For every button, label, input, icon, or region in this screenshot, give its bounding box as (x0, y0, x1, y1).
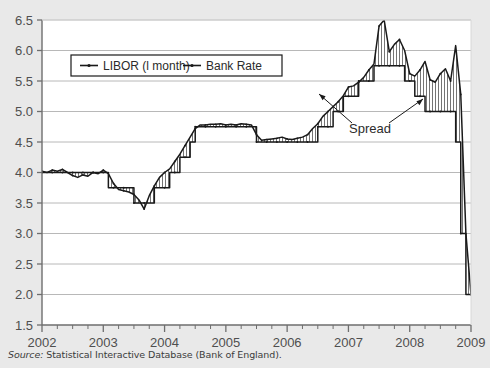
series-marker (245, 123, 247, 125)
series-marker (256, 141, 258, 143)
y-axis-ticks (37, 20, 42, 325)
series-marker (296, 137, 298, 139)
series-marker (429, 79, 431, 81)
series-marker (113, 183, 115, 185)
series-marker (123, 187, 125, 189)
series-marker (164, 172, 166, 174)
series-marker (62, 172, 64, 174)
series-marker (409, 73, 411, 75)
series-marker (419, 69, 421, 71)
spread-annotation-label: Spread (349, 121, 391, 136)
series-marker (215, 123, 217, 125)
y-tick-label: 5.0 (15, 104, 33, 119)
series-marker (450, 111, 452, 113)
series-marker (378, 25, 380, 27)
series-marker (286, 141, 288, 143)
series-marker (215, 126, 217, 128)
y-tick-label: 4.0 (15, 165, 33, 180)
series-marker (348, 86, 350, 88)
series-marker (266, 139, 268, 141)
x-axis-ticks (42, 325, 471, 332)
series-marker (235, 124, 237, 126)
y-axis-tick-labels: 1.52.02.53.03.54.04.55.05.56.06.5 (15, 13, 33, 333)
series-marker (143, 208, 145, 210)
series-marker (184, 156, 186, 158)
legend-item-label[interactable]: LIBOR (l month) (103, 59, 190, 73)
series-marker (205, 124, 207, 126)
series-marker (296, 141, 298, 143)
series-marker (317, 123, 319, 125)
series-marker (62, 169, 64, 171)
series-marker (143, 202, 145, 204)
x-tick-label: 2005 (211, 335, 240, 350)
series-marker (399, 39, 401, 41)
series-marker (450, 80, 452, 82)
x-tick-label: 2009 (457, 335, 486, 350)
series-marker (51, 169, 53, 171)
libor-bank-rate-chart: 1.52.02.53.03.54.04.55.05.56.06.5 200220… (0, 0, 490, 368)
series-marker (327, 111, 329, 113)
series-marker (358, 80, 360, 82)
x-tick-label: 2002 (28, 335, 57, 350)
x-tick-label: 2003 (89, 335, 118, 350)
series-marker (235, 126, 237, 128)
series-marker (286, 138, 288, 140)
series-marker (245, 126, 247, 128)
series-marker (123, 190, 125, 192)
series-marker (348, 95, 350, 97)
series-marker (439, 111, 441, 113)
series-marker (399, 65, 401, 67)
series-marker (266, 141, 268, 143)
y-tick-label: 6.5 (15, 13, 33, 28)
series-marker (113, 187, 115, 189)
series-marker (307, 134, 309, 136)
y-tick-label: 5.5 (15, 74, 33, 89)
series-marker (174, 172, 176, 174)
series-marker (317, 126, 319, 128)
series-marker (388, 65, 390, 67)
series-marker (72, 172, 74, 174)
x-tick-label: 2008 (395, 335, 424, 350)
x-tick-label: 2006 (273, 335, 302, 350)
series-marker (194, 126, 196, 128)
series-marker (153, 187, 155, 189)
series-marker (72, 175, 74, 177)
series-marker (460, 233, 462, 235)
y-tick-label: 6.0 (15, 43, 33, 58)
y-tick-label: 3.5 (15, 196, 33, 211)
series-marker (184, 145, 186, 147)
series-marker (439, 73, 441, 75)
series-marker (429, 111, 431, 113)
y-tick-label: 1.5 (15, 318, 33, 333)
series-marker (409, 80, 411, 82)
series-marker (276, 141, 278, 143)
series-marker (82, 174, 84, 176)
x-axis-tick-labels: 20022003200420052006200720082009 (28, 335, 486, 350)
y-tick-label: 2.5 (15, 257, 33, 272)
series-marker (460, 94, 462, 96)
source-text: Statistical Interactive Database (Bank o… (43, 349, 281, 360)
series-marker (225, 126, 227, 128)
series-marker (164, 187, 166, 189)
chart-legend[interactable]: LIBOR (l month)Bank Rate (71, 55, 282, 76)
series-marker (153, 185, 155, 187)
series-marker (307, 141, 309, 143)
series-marker (368, 80, 370, 82)
x-tick-label: 2004 (150, 335, 179, 350)
y-tick-label: 3.0 (15, 226, 33, 241)
series-marker (337, 101, 339, 103)
series-marker (133, 202, 135, 204)
legend-item-label[interactable]: Bank Rate (206, 59, 262, 73)
source-label: Source: (8, 349, 43, 360)
series-marker (378, 65, 380, 67)
series-marker (276, 137, 278, 139)
series-marker (368, 69, 370, 71)
y-tick-label: 2.0 (15, 287, 33, 302)
y-tick-label: 4.5 (15, 135, 33, 150)
series-marker (205, 126, 207, 128)
source-note: Source: Statistical Interactive Database… (8, 349, 282, 360)
series-marker (92, 172, 94, 174)
series-marker (225, 124, 227, 126)
x-tick-label: 2007 (334, 335, 363, 350)
series-marker (174, 161, 176, 163)
